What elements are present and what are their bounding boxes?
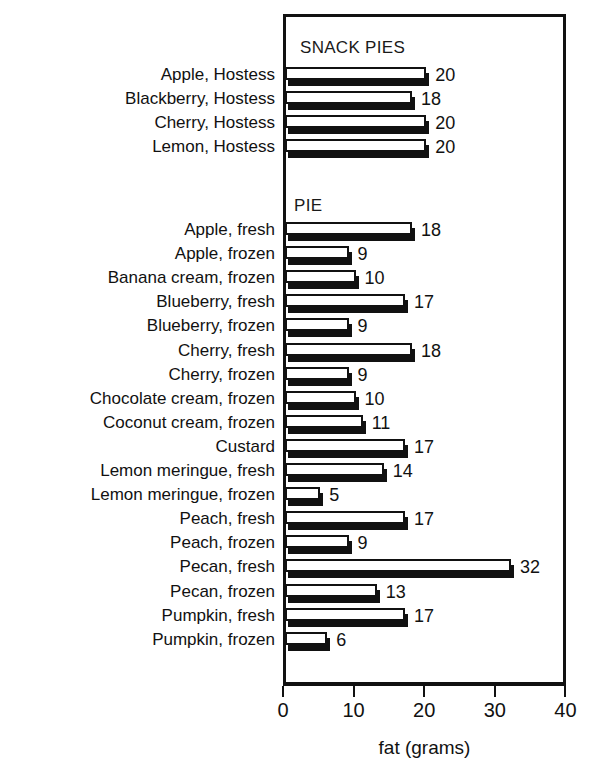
bar (285, 270, 362, 290)
category-label: Pumpkin, frozen (0, 631, 279, 648)
category-label: Blueberry, fresh (0, 293, 279, 310)
bar-chart-figure: SNACK PIES PIE Apple, Hostess20Blackberr… (0, 0, 601, 782)
x-tick-label: 30 (484, 700, 506, 720)
section-header-snack-pies: SNACK PIES (300, 38, 405, 58)
bar (285, 294, 411, 314)
bar (285, 222, 418, 242)
bar (285, 415, 369, 435)
bar-value-label: 9 (358, 245, 368, 263)
bar-face (285, 391, 356, 404)
bar-value-label: 5 (329, 486, 339, 504)
bar-face (285, 511, 405, 524)
bar (285, 139, 432, 159)
bar-value-label: 20 (435, 114, 455, 132)
bar-value-label: 14 (393, 462, 413, 480)
bar-face (285, 367, 349, 380)
bar-value-label: 10 (365, 269, 385, 287)
x-tick-label: 20 (413, 700, 435, 720)
category-label: Apple, frozen (0, 245, 279, 262)
bar-value-label: 17 (414, 438, 434, 456)
bar-face (285, 608, 405, 621)
bar-value-label: 18 (421, 90, 441, 108)
x-tick-mark (564, 686, 566, 697)
bar-value-label: 9 (358, 366, 368, 384)
bar-face (285, 91, 412, 104)
x-tick-mark (282, 686, 284, 697)
bar-value-label: 11 (372, 414, 391, 432)
bar (285, 391, 362, 411)
bar-value-label: 10 (365, 390, 385, 408)
bar-face (285, 67, 426, 80)
bar-value-label: 9 (358, 534, 368, 552)
bar-face (285, 115, 426, 128)
bar (285, 246, 355, 266)
category-label: Lemon, Hostess (0, 138, 279, 155)
category-label: Banana cream, frozen (0, 269, 279, 286)
bar-face (285, 535, 349, 548)
category-label: Coconut cream, frozen (0, 414, 279, 431)
bar-face (285, 270, 356, 283)
bar (285, 343, 418, 363)
bar-value-label: 17 (414, 510, 434, 528)
category-label: Peach, fresh (0, 510, 279, 527)
bar (285, 559, 517, 579)
bar (285, 608, 411, 628)
bar (285, 511, 411, 531)
x-tick-mark (353, 686, 355, 697)
bar-face (285, 318, 349, 331)
category-label: Apple, Hostess (0, 66, 279, 83)
bar (285, 439, 411, 459)
x-tick-label: 40 (554, 700, 576, 720)
bar-face (285, 139, 426, 152)
bar-face (285, 246, 349, 259)
category-label: Pumpkin, fresh (0, 607, 279, 624)
x-tick-label: 0 (277, 700, 288, 720)
bar (285, 535, 355, 555)
bar (285, 318, 355, 338)
category-label: Blackberry, Hostess (0, 90, 279, 107)
category-label: Cherry, fresh (0, 342, 279, 359)
bar-value-label: 20 (435, 138, 455, 156)
bar-face (285, 632, 327, 645)
bar-value-label: 18 (421, 342, 441, 360)
category-label: Apple, fresh (0, 221, 279, 238)
category-label: Chocolate cream, frozen (0, 390, 279, 407)
category-label: Lemon meringue, fresh (0, 462, 279, 479)
bar-face (285, 487, 320, 500)
category-label: Pecan, fresh (0, 558, 279, 575)
x-tick-label: 10 (342, 700, 364, 720)
bar-value-label: 20 (435, 66, 455, 84)
bar-value-label: 13 (386, 583, 406, 601)
bar-face (285, 294, 405, 307)
bar-face (285, 559, 511, 572)
bar-value-label: 17 (414, 607, 434, 625)
category-label: Cherry, Hostess (0, 114, 279, 131)
category-label: Cherry, frozen (0, 366, 279, 383)
category-label: Lemon meringue, frozen (0, 486, 279, 503)
bar (285, 584, 383, 604)
bar-value-label: 17 (414, 293, 434, 311)
x-axis-title: fat (grams) (283, 737, 566, 759)
bar-face (285, 463, 384, 476)
bar-face (285, 584, 377, 597)
bar (285, 91, 418, 111)
bar-face (285, 439, 405, 452)
bar-value-label: 18 (421, 221, 441, 239)
bar (285, 463, 390, 483)
bar-face (285, 222, 412, 235)
bar-value-label: 32 (520, 558, 540, 576)
x-tick-mark (494, 686, 496, 697)
bar-value-label: 6 (336, 631, 346, 649)
category-label: Custard (0, 438, 279, 455)
category-label: Peach, frozen (0, 534, 279, 551)
bar-value-label: 9 (358, 317, 368, 335)
category-label: Pecan, frozen (0, 583, 279, 600)
x-tick-mark (423, 686, 425, 697)
category-label: Blueberry, frozen (0, 317, 279, 334)
bar-face (285, 343, 412, 356)
bar-face (285, 415, 363, 428)
bar (285, 367, 355, 387)
bar (285, 632, 333, 652)
bar (285, 487, 326, 507)
section-header-pie: PIE (294, 196, 322, 216)
